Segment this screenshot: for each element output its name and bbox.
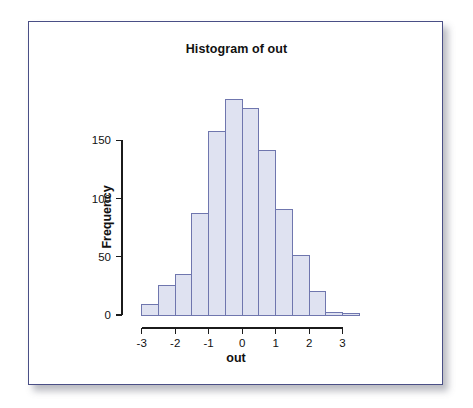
histogram-bar <box>343 314 360 315</box>
x-axis-ticks: -3-2-10123 <box>137 328 346 349</box>
histogram-bar <box>225 100 242 315</box>
histogram-bar <box>309 292 326 315</box>
histogram-bar <box>292 256 309 315</box>
figure-card: Histogram of out -3-2-10123 050100150 ou… <box>28 21 443 385</box>
x-tick-label: -3 <box>137 337 147 349</box>
histogram-bar <box>175 274 192 315</box>
chart-canvas: -3-2-10123 050100150 out Frequency <box>29 22 444 386</box>
y-tick-label: 150 <box>92 134 111 146</box>
histogram-bar <box>192 214 209 315</box>
x-tick-label: -2 <box>170 337 180 349</box>
y-tick-label: 50 <box>98 251 111 263</box>
histogram-bar <box>259 151 276 315</box>
x-tick-label: 1 <box>272 337 278 349</box>
x-tick-label: 0 <box>239 337 245 349</box>
histogram-bar <box>209 131 226 315</box>
histogram-plot: Histogram of out -3-2-10123 050100150 ou… <box>29 22 444 386</box>
y-axis-title: Frequency <box>100 185 114 248</box>
histogram-bar <box>326 313 343 315</box>
histogram-bar <box>276 209 293 315</box>
x-tick-label: -1 <box>204 337 214 349</box>
bars-group <box>142 100 360 315</box>
histogram-bar <box>242 109 259 315</box>
y-tick-label: 0 <box>105 309 111 321</box>
x-axis-title: out <box>226 351 246 365</box>
histogram-bar <box>158 286 175 315</box>
histogram-bar <box>142 305 159 315</box>
x-tick-label: 2 <box>306 337 312 349</box>
x-tick-label: 3 <box>339 337 345 349</box>
